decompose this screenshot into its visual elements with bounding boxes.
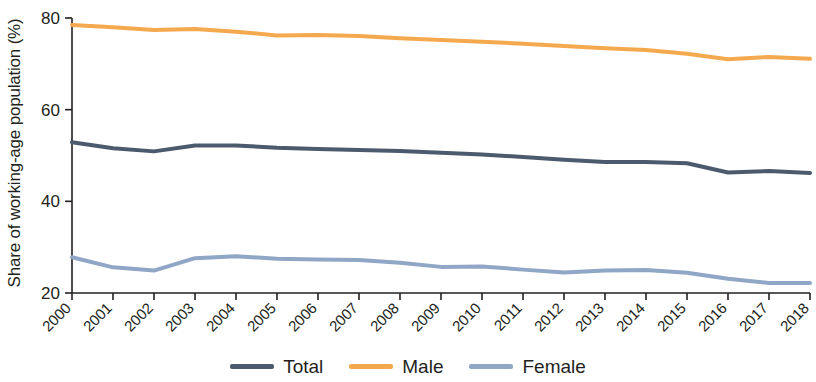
y-tick-label: 80 [41, 9, 60, 28]
y-axis: 20406080 [41, 9, 72, 303]
line-chart: Share of working-age population (%) 2040… [0, 0, 816, 382]
x-tick-label: 2010 [449, 299, 485, 335]
legend-item-total[interactable]: Total [230, 357, 323, 376]
x-tick-label: 2008 [367, 299, 403, 335]
chart-legend: TotalMaleFemale [0, 357, 816, 376]
x-tick-label: 2011 [490, 299, 525, 334]
x-tick-label: 2001 [80, 299, 116, 335]
x-tick-label: 2018 [777, 299, 813, 335]
y-tick-group: 20406080 [41, 9, 72, 303]
legend-swatch-male [349, 364, 393, 369]
x-tick-label: 2009 [408, 299, 444, 335]
x-tick-label: 2016 [695, 299, 731, 335]
x-tick-label: 2007 [326, 299, 362, 335]
x-tick-label: 2002 [121, 299, 157, 335]
plot-area: 20406080 2000200120022003200420052006200… [0, 0, 816, 382]
x-axis: 2000200120022003200420052006200720082009… [39, 293, 813, 335]
y-tick-label: 60 [41, 101, 60, 120]
x-tick-label: 2013 [572, 299, 608, 335]
series-line-male [72, 25, 810, 59]
x-tick-label: 2006 [285, 299, 321, 335]
y-tick-label: 20 [41, 284, 60, 303]
legend-swatch-total [230, 364, 274, 369]
x-tick-label: 2014 [613, 299, 649, 335]
series-line-female [72, 256, 810, 283]
legend-label-female: Female [522, 357, 585, 376]
x-tick-label: 2003 [162, 299, 198, 335]
legend-label-male: Male [402, 357, 443, 376]
x-tick-label: 2015 [654, 299, 690, 335]
x-tick-label: 2012 [531, 299, 567, 335]
legend-item-male[interactable]: Male [349, 357, 443, 376]
x-tick-label: 2004 [203, 299, 239, 335]
legend-label-total: Total [283, 357, 323, 376]
y-tick-label: 40 [41, 192, 60, 211]
series-line-total [72, 142, 810, 173]
legend-item-female[interactable]: Female [469, 357, 585, 376]
x-tick-group: 2000200120022003200420052006200720082009… [39, 293, 813, 335]
legend-swatch-female [469, 364, 513, 369]
series-layer [72, 25, 810, 283]
x-tick-label: 2017 [736, 299, 772, 335]
x-tick-label: 2005 [244, 299, 280, 335]
x-tick-label: 2000 [39, 299, 75, 335]
